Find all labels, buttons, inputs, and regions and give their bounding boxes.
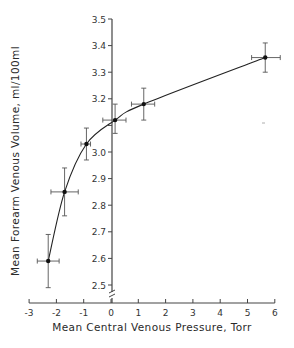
point-marker [263,55,267,59]
y-tick-label: 3.0 [92,148,107,158]
y-tick-label: 2.8 [92,201,107,211]
series-line [48,58,265,261]
y-tick-label: 3.4 [92,41,107,51]
x-tick-label: 6 [272,308,278,318]
x-tick-label: -1 [79,308,88,318]
x-tick-label: -3 [25,308,34,318]
y-tick-label: 2.5 [92,281,106,291]
chart: -3-2-101234562.52.62.72.82.93.03.23.33.4… [0,0,294,348]
data-point [103,104,126,133]
x-tick-label: -2 [52,308,61,318]
point-marker [142,102,146,106]
y-tick-label: 2.7 [92,227,106,237]
y-tick-label: 3.5 [92,15,106,25]
data-point [37,234,59,287]
y-tick-label: 3.2 [92,94,106,104]
x-tick-label: 5 [245,308,251,318]
point-marker [46,259,50,263]
data-point [81,128,91,160]
x-tick-label: 1 [135,308,141,318]
point-marker [113,118,117,122]
x-axis-label: Mean Central Venous Pressure, Torr [52,321,252,333]
data-point [51,168,78,216]
x-tick-label: 4 [217,308,223,318]
x-tick-label: 0 [108,308,114,318]
axis-break-icon [109,290,115,297]
data-point [252,43,281,72]
y-tick-label: 2.6 [92,254,107,264]
data-series [37,43,280,288]
data-point [131,88,154,120]
y-tick-label: 3.3 [92,68,106,78]
x-tick-label: 2 [163,308,169,318]
x-tick-label: 3 [190,308,196,318]
y-axis-label: Mean Forearm Venous Volume, ml/100ml [9,46,21,276]
point-marker [62,190,66,194]
point-marker [84,142,88,146]
axes: -3-2-101234562.52.62.72.82.93.03.23.33.4… [25,15,278,319]
y-tick-label: 2.9 [92,174,107,184]
